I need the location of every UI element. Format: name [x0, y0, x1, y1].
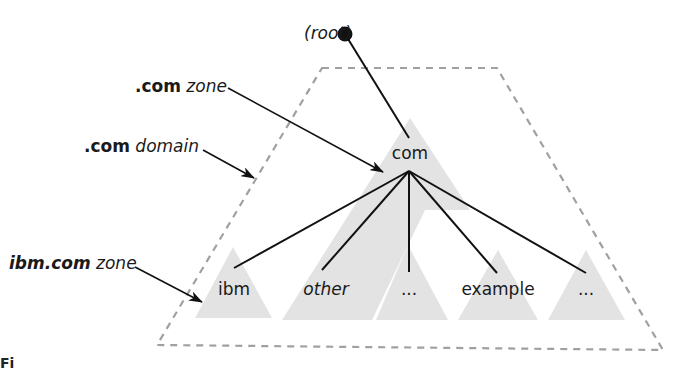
com-domain-callout: .com domain — [84, 138, 199, 155]
node-com: com — [392, 145, 428, 162]
com-domain-arrow — [203, 150, 254, 178]
com-zone-callout-bold: .com — [135, 76, 181, 96]
ibm-zone-callout-rest: zone — [91, 253, 137, 273]
node-other: other — [303, 281, 348, 298]
com-domain-callout-bold: .com — [84, 136, 130, 156]
com-zone-callout-rest: zone — [181, 76, 227, 96]
node-ibm: ibm — [218, 281, 250, 298]
node-ellipsis-right: ... — [578, 281, 594, 298]
ibm-zone-arrow — [135, 267, 202, 302]
com-child-edges — [234, 171, 586, 273]
node-ellipsis-mid: ... — [401, 281, 417, 298]
root-label: (root) — [304, 25, 352, 42]
com-zone-arrow — [228, 88, 383, 172]
caption-fragment: Fi — [0, 356, 14, 370]
com-zone-callout: .com zone — [135, 78, 227, 95]
node-example: example — [461, 281, 534, 298]
root-com-edge — [345, 34, 409, 138]
ibm-zone-callout-bold: ibm.com — [9, 253, 91, 273]
com-domain-callout-rest: domain — [130, 136, 199, 156]
ibm-zone-callout: ibm.com zone — [9, 255, 137, 272]
